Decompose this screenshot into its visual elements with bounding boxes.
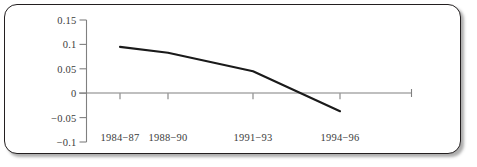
- chart-figure: 0.150.10.050−0.05−0.1 1984−871988−901991…: [0, 0, 477, 167]
- y-axis-tick-label: −0.1: [57, 137, 77, 148]
- chart-frame-border: [4, 4, 461, 154]
- y-axis-tick-label: −0.05: [51, 112, 76, 123]
- x-axis-tick-label: 1991−93: [234, 132, 273, 143]
- x-axis-tick-label: 1988−90: [149, 132, 188, 143]
- x-axis-tick-label: 1994−96: [321, 132, 360, 143]
- x-axis-tick-label: 1984−87: [101, 132, 140, 143]
- y-axis-tick-label: 0.1: [63, 39, 77, 50]
- y-axis-tick-label: 0: [71, 88, 76, 99]
- y-axis-tick-label: 0.05: [57, 63, 76, 74]
- y-axis-tick-label: 0.15: [57, 15, 76, 26]
